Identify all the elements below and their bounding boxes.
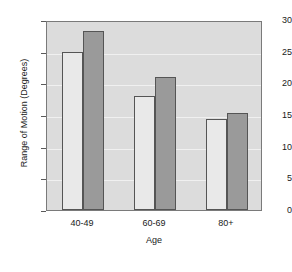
bar xyxy=(83,31,104,210)
x-axis-tick-label: 80+ xyxy=(196,218,256,228)
chart-page: Range of Motion (Degrees) 051015202530 4… xyxy=(0,0,292,272)
bar xyxy=(134,96,155,210)
bar xyxy=(227,113,248,210)
bar xyxy=(206,119,227,210)
x-axis-tick-label: 60-69 xyxy=(124,218,184,228)
x-axis-label: Age xyxy=(46,235,262,245)
plot-area xyxy=(46,21,262,211)
x-axis-tick-label: 40-49 xyxy=(52,218,112,228)
y-axis-tick-mark xyxy=(41,211,46,212)
y-axis-label: Range of Motion (Degrees) xyxy=(19,38,29,188)
bar xyxy=(62,52,83,210)
bar xyxy=(155,77,176,210)
